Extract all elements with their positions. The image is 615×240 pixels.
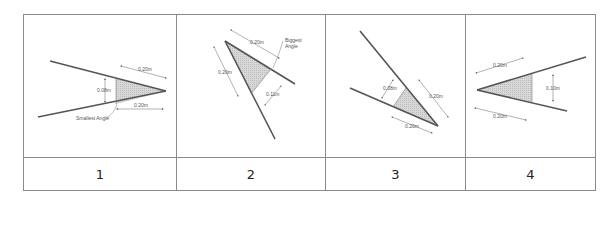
column-label-1: 1 <box>24 158 176 190</box>
angle-figure-3: 0.08m 0.20m 0.20m <box>350 31 448 133</box>
dim-label: 0.08m <box>97 87 111 93</box>
dim-label: 0.10m <box>546 85 560 91</box>
dim-label: 0.20m <box>429 93 443 99</box>
dim-label: 0.20m <box>250 39 264 45</box>
dim-label: 0.11m <box>266 91 280 97</box>
dim-label: 0.08m <box>383 85 397 91</box>
dim-label: 0.20m <box>493 113 507 119</box>
column-label-2: 2 <box>177 158 325 190</box>
column-label-4: 4 <box>466 158 595 190</box>
dim-label: 0.20m <box>405 123 419 129</box>
dim-label: 0.20m <box>493 62 507 68</box>
angle-figure-2: 0.20m 0.20m 0.11m BiggestAngle <box>214 30 302 139</box>
annotation-biggest-angle: BiggestAngle <box>285 37 302 49</box>
dim-label: 0.20m <box>134 102 148 108</box>
angle-figure-1: 0.20m 0.08m 0.20m Smallest Angle <box>38 61 166 121</box>
column-label-3: 3 <box>326 158 465 190</box>
dim-label: 0.20m <box>138 66 152 72</box>
angle-figure-4: 0.20m 0.10m 0.20m <box>475 57 586 120</box>
dim-label: 0.20m <box>218 69 232 75</box>
annotation-smallest-angle: Smallest Angle <box>76 115 109 121</box>
